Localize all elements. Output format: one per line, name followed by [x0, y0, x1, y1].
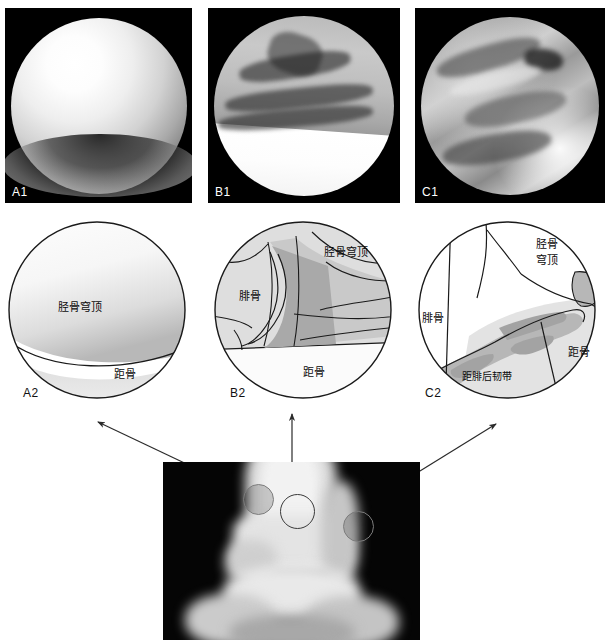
scope-field-b1 [214, 16, 394, 196]
anterolateral-portal-marker[interactable] [343, 511, 374, 542]
panel-tag-b1: B1 [215, 185, 231, 199]
label-talus-c2: 距骨 [568, 346, 590, 359]
anteromedial-portal-marker[interactable] [243, 484, 274, 515]
figure-root: A1 B1 C1 [0, 0, 607, 642]
label-ptfl-c2: 距腓后韧带 [462, 371, 512, 382]
panel-tag-c1: C1 [422, 185, 438, 199]
b2-contents [208, 218, 400, 408]
panel-tag-b2: B2 [230, 386, 246, 400]
line-diagram-b2: 胫骨穹顶 腓骨 距骨 B2 [208, 218, 400, 408]
label-talus-a2: 距骨 [114, 368, 136, 381]
photo-band [441, 125, 555, 172]
line-diagram-a2: 胫骨穹顶 距骨 A2 [5, 218, 195, 408]
label-talus-b2: 距骨 [303, 366, 325, 379]
label-fibula-b2: 腓骨 [239, 290, 261, 303]
tibial-plafond-region-a2 [5, 218, 195, 362]
panel-tag-a2: A2 [23, 386, 39, 400]
label-tibial-plafond-b2: 胫骨穹顶 [324, 245, 368, 259]
label-fibula-c2: 腓骨 [422, 312, 444, 325]
scope-field-c1 [421, 17, 599, 195]
line-diagram-c2: 胫骨 穹顶 腓骨 距骨 距腓后韧带 C2 [415, 218, 605, 408]
arthroscopic-photo-b1: B1 [208, 8, 400, 203]
scope-field-a1 [11, 18, 187, 194]
label-tibial-plafond-line1-c2: 胫骨 [536, 238, 558, 251]
panel-tag-c2: C2 [425, 386, 441, 400]
arthroscopic-photo-c1: C1 [415, 8, 605, 203]
anterocentral-portal-marker[interactable] [280, 494, 315, 529]
label-tibial-plafond-line2-c2: 穹顶 [536, 253, 558, 267]
panel-tag-a1: A1 [12, 185, 28, 199]
arthroscopic-photo-a1: A1 [5, 8, 192, 203]
ap-ankle-radiograph [163, 462, 420, 640]
label-tibial-plafond-a2: 胫骨穹顶 [58, 300, 102, 314]
